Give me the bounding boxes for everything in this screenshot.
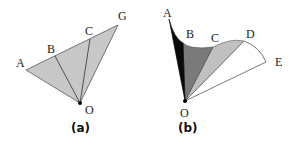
- origin-point-b: [183, 99, 187, 103]
- label-b-E: E: [275, 55, 282, 69]
- label-b-B: B: [186, 27, 194, 41]
- label-b-A: A: [163, 6, 172, 20]
- diagram-canvas: A B C G O (a) A B C D E O (b): [0, 0, 297, 146]
- label-b-D: D: [246, 27, 255, 41]
- label-a-O: O: [85, 103, 94, 117]
- origin-point-a: [78, 101, 82, 105]
- label-b-C: C: [211, 31, 219, 45]
- caption-a: (a): [71, 121, 90, 135]
- figure-a: A B C G O (a): [16, 9, 127, 135]
- label-a-A: A: [16, 56, 25, 70]
- wedge-OAB: [169, 19, 185, 101]
- label-a-G: G: [118, 9, 127, 23]
- label-a-C: C: [85, 24, 93, 38]
- label-a-B: B: [47, 42, 55, 56]
- label-b-O: O: [180, 106, 189, 120]
- triangle-AGO: [26, 25, 118, 103]
- figure-b: A B C D E O (b): [163, 6, 282, 135]
- caption-b: (b): [178, 121, 198, 135]
